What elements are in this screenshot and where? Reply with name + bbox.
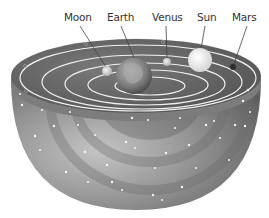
mars-body [230,64,236,70]
label-mars: Mars [232,11,256,23]
label-moon: Moon [64,11,92,23]
sun-body [188,48,212,72]
label-sun: Sun [197,11,216,23]
venus-body [163,58,171,66]
label-earth: Earth [107,11,134,23]
geocentric-diagram: Moon Earth Venus Sun Mars [0,0,269,218]
moon-body [102,66,112,76]
cosmos-hemisphere-illustration [0,0,269,218]
label-venus: Venus [152,11,183,23]
